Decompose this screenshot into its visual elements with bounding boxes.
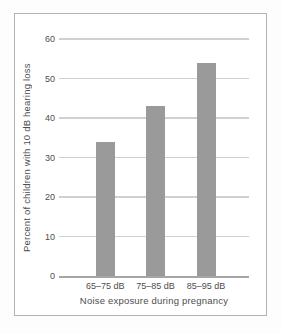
bar-75–85 dB xyxy=(146,106,165,276)
figure-frame: Percent of children with 10 dB hearing l… xyxy=(14,13,267,316)
gridline xyxy=(59,38,249,40)
y-tick-label: 0 xyxy=(15,270,55,282)
y-tick-label: 60 xyxy=(15,33,55,45)
x-axis-label: Noise exposure during pregnancy xyxy=(59,295,249,306)
y-tick-label: 40 xyxy=(15,112,55,124)
figure: Percent of children with 10 dB hearing l… xyxy=(0,0,281,334)
y-tick-label: 30 xyxy=(15,152,55,164)
plot-area xyxy=(59,39,249,276)
y-tick-label: 20 xyxy=(15,191,55,203)
bar-65–75 dB xyxy=(96,142,115,276)
x-tick-label: 85–95 dB xyxy=(171,280,241,292)
bar-85–95 dB xyxy=(197,63,216,276)
y-tick-label: 10 xyxy=(15,231,55,243)
gridline xyxy=(59,78,249,80)
x-axis-line xyxy=(59,276,249,278)
y-tick-label: 50 xyxy=(15,73,55,85)
